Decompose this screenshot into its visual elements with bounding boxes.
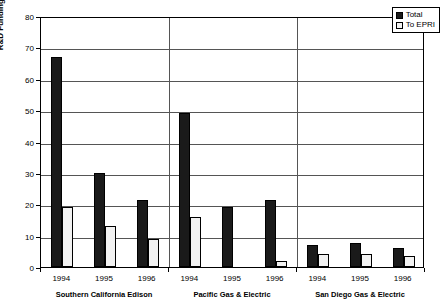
- bar-to-epri: [276, 261, 287, 267]
- bar-total: [222, 207, 233, 267]
- y-tick-label: 30: [14, 169, 34, 178]
- x-tick-label-year: 1996: [255, 274, 295, 283]
- x-tick-label-year: 1996: [127, 274, 167, 283]
- x-tick-label-year: 1996: [383, 274, 423, 283]
- legend-label: To EPRI: [406, 20, 435, 30]
- y-tick-label: 70: [14, 44, 34, 53]
- legend-label: Total: [406, 10, 423, 20]
- y-tick-label: 50: [14, 107, 34, 116]
- x-tick-label-year: 1995: [340, 274, 380, 283]
- bar-total: [137, 200, 148, 267]
- y-tick-label: 20: [14, 201, 34, 210]
- bar-total: [94, 173, 105, 267]
- x-tick-mark: [168, 268, 169, 272]
- y-axis-title: R&D Funding (Million 1996$): [0, 0, 5, 96]
- x-axis: 199419951996Southern California Edison19…: [40, 268, 424, 308]
- bar-to-epri: [404, 256, 415, 267]
- legend-item: To EPRI: [396, 20, 435, 30]
- x-tick-mark: [296, 268, 297, 272]
- chart-figure: R&D Funding (Million 1996$) 010203040506…: [0, 0, 446, 308]
- bar-total: [265, 200, 276, 267]
- bar-total: [51, 57, 62, 267]
- x-tick-label-year: 1994: [169, 274, 209, 283]
- y-tick-label: 80: [14, 13, 34, 22]
- bar-to-epri: [62, 207, 73, 267]
- x-tick-mark: [424, 268, 425, 272]
- bar-to-epri: [148, 239, 159, 267]
- x-tick-label-year: 1994: [297, 274, 337, 283]
- x-tick-label-year: 1995: [84, 274, 124, 283]
- y-tick-label: 40: [14, 138, 34, 147]
- legend-item: Total: [396, 10, 435, 20]
- x-tick-mark: [40, 268, 41, 272]
- y-tick-label: 0: [14, 264, 34, 273]
- bar-total: [350, 243, 361, 267]
- bar-total: [393, 248, 404, 267]
- bars-layer: [41, 18, 423, 267]
- chart-legend: TotalTo EPRI: [392, 7, 440, 33]
- legend-swatch-icon: [396, 22, 403, 29]
- y-tick-label: 10: [14, 232, 34, 241]
- x-tick-label-year: 1994: [41, 274, 81, 283]
- x-axis-group-label: San Diego Gas & Electric: [270, 290, 446, 299]
- plot-area: [40, 17, 424, 268]
- bar-total: [179, 113, 190, 267]
- bar-total: [307, 245, 318, 267]
- bar-to-epri: [190, 217, 201, 267]
- bar-to-epri: [105, 226, 116, 267]
- bar-to-epri: [318, 254, 329, 267]
- x-tick-label-year: 1995: [212, 274, 252, 283]
- legend-swatch-icon: [396, 12, 403, 19]
- bar-to-epri: [361, 254, 372, 267]
- y-tick-label: 60: [14, 75, 34, 84]
